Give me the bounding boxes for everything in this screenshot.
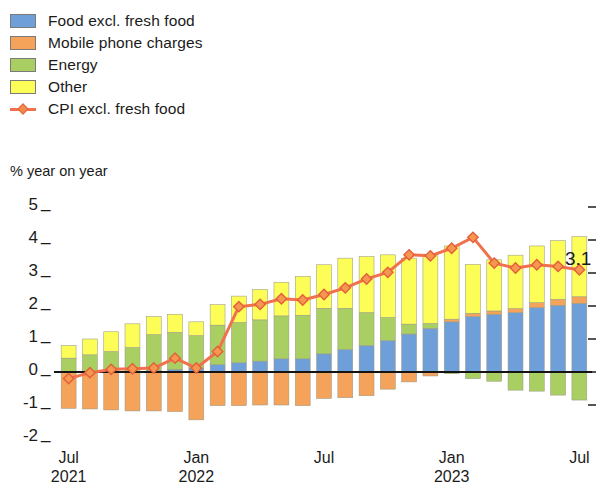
plot-area (0, 190, 596, 460)
bar-segment (551, 299, 566, 305)
y-axis-tick-label: -2 (12, 426, 38, 446)
chart-root: Food excl. fresh foodMobile phone charge… (0, 0, 596, 500)
bar-segment (317, 372, 332, 398)
legend-item[interactable]: Mobile phone charges (10, 32, 310, 54)
square-swatch-icon (10, 36, 36, 50)
y-axis-tick-label: 4 (12, 228, 38, 248)
y-axis-tick-mark: _ (41, 259, 50, 279)
bar-segment (466, 313, 481, 316)
y-axis-tick-mark: _ (41, 391, 50, 411)
legend-item-label: Food excl. fresh food (48, 12, 195, 30)
bar-segment (529, 308, 544, 372)
bar-segment (423, 328, 438, 372)
y-axis-tick-mark: _ (41, 358, 50, 378)
y-axis-tick-label: 1 (12, 327, 38, 347)
legend-item-label: CPI excl. fresh food (48, 100, 185, 118)
bar-segment (295, 315, 310, 359)
bar-segment (466, 264, 481, 313)
bar-segment (61, 346, 76, 359)
bar-segment (487, 372, 502, 381)
bar-segment (380, 372, 395, 389)
bar-segment (487, 311, 502, 314)
bar-segment (572, 372, 587, 400)
bar-segment (189, 322, 204, 336)
bar-segment (402, 334, 417, 372)
y-axis-tick-label: 5 (12, 195, 38, 215)
line-marker-icon (10, 102, 36, 116)
bar-segment (210, 305, 225, 325)
x-axis-month-label: Jan (161, 448, 231, 467)
legend-item-label: Mobile phone charges (48, 34, 203, 52)
legend-item[interactable]: Energy (10, 54, 310, 76)
bar-segment (189, 372, 204, 420)
x-axis-year-label: 2023 (417, 467, 487, 486)
bar-segment (444, 322, 459, 372)
bar-segment (508, 313, 523, 372)
x-axis-month-label: Jul (289, 448, 359, 467)
legend-item[interactable]: Food excl. fresh food (10, 10, 310, 32)
bar-segment (529, 246, 544, 303)
x-axis-tick-label: Jul2021 (34, 448, 104, 486)
square-swatch-icon (10, 58, 36, 72)
y-axis-tick-mark: _ (41, 193, 50, 213)
bar-segment (231, 372, 246, 406)
bar-segment (487, 314, 502, 372)
bar-segment (274, 359, 289, 372)
y-axis-tick-label: 3 (12, 261, 38, 281)
legend-item-label: Energy (48, 56, 98, 74)
x-axis-tick-label: Jan2023 (417, 448, 487, 486)
x-axis-tick-label: Jan2022 (161, 448, 231, 486)
x-axis-tick-label: Jul (289, 448, 359, 467)
legend-item[interactable]: Other (10, 76, 310, 98)
legend-item-label: Other (48, 78, 87, 96)
bar-segment (402, 258, 417, 324)
bar-segment (572, 303, 587, 372)
y-axis-tick-label: -1 (12, 393, 38, 413)
y-axis-tick-mark: _ (41, 325, 50, 345)
bar-segment (104, 372, 119, 410)
x-axis-year-label: 2022 (161, 467, 231, 486)
bar-segment (317, 308, 332, 354)
y-axis-right-ticks (588, 207, 596, 405)
bar-segment (380, 341, 395, 372)
bar-segment (380, 255, 395, 318)
chart-legend: Food excl. fresh foodMobile phone charge… (10, 10, 310, 120)
bars-group (61, 237, 587, 420)
bar-segment (125, 324, 140, 348)
bar-segment (572, 297, 587, 304)
last-value-label: 3.1 (565, 248, 591, 270)
bar-segment (210, 372, 225, 406)
bar-segment (359, 313, 374, 346)
legend-item[interactable]: CPI excl. fresh food (10, 98, 310, 120)
bar-segment (402, 372, 417, 382)
bar-segment (253, 372, 268, 405)
bar-segment (125, 372, 140, 411)
bar-segment (253, 320, 268, 361)
bar-segment (317, 265, 332, 309)
bar-segment (444, 319, 459, 322)
y-axis-tick-mark: _ (41, 292, 50, 312)
bar-segment (146, 372, 161, 411)
bar-segment (551, 305, 566, 372)
bar-segment (274, 316, 289, 359)
bar-segment (466, 317, 481, 372)
bar-segment (338, 308, 353, 349)
bar-segment (508, 372, 523, 390)
square-swatch-icon (10, 80, 36, 94)
y-axis-title: % year on year (10, 163, 108, 179)
bar-segment (253, 361, 268, 372)
bar-segment (317, 354, 332, 372)
bar-segment (146, 317, 161, 335)
bar-segment (529, 303, 544, 308)
bar-segment (508, 309, 523, 313)
bar-segment (423, 323, 438, 328)
bar-segment (295, 372, 310, 406)
chart-svg (0, 190, 596, 460)
bar-segment (231, 363, 246, 372)
x-axis-month-label: Jul (544, 448, 596, 467)
bar-segment (295, 359, 310, 372)
bar-segment (231, 323, 246, 363)
bar-segment (551, 372, 566, 395)
x-axis-tick-label: Jul (544, 448, 596, 467)
bar-segment (210, 325, 225, 365)
